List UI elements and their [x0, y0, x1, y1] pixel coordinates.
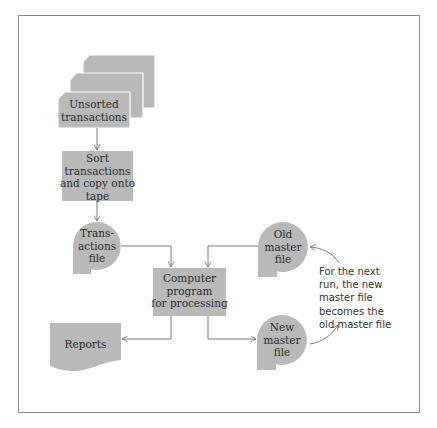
note-line: For the next: [319, 265, 391, 278]
annotation-note: For the next run, the new master file be…: [319, 265, 391, 331]
label-line: master: [257, 334, 307, 347]
unsorted-transactions-label: Unsorted transactions: [58, 98, 130, 123]
label-line: Old: [258, 228, 308, 241]
computer-program-label: Computer program for processing: [150, 272, 229, 310]
note-line: becomes the: [319, 305, 391, 318]
sort-label: Sort transactions and copy onto tape: [60, 152, 135, 202]
label-line: and copy onto: [60, 177, 135, 190]
note-line: old master file: [319, 318, 391, 331]
label-line: for processing: [150, 297, 229, 310]
new-master-file-label: New master file: [257, 321, 307, 359]
label-line: Computer: [150, 272, 229, 285]
label-line: transactions: [58, 111, 130, 124]
label-line: Sort: [60, 152, 135, 165]
label-line: actions: [73, 240, 121, 253]
transactions-file-label: Trans- actions file: [73, 227, 121, 265]
label-line: file: [73, 252, 121, 265]
flowchart-canvas: [0, 0, 437, 428]
label-line: file: [258, 253, 308, 266]
arrow-computer-to-new-master: [208, 316, 256, 339]
note-line: master file: [319, 291, 391, 304]
label-line: transactions: [60, 165, 135, 178]
label-line: tape: [60, 190, 135, 203]
label-line: program: [150, 285, 229, 298]
label-line: Trans-: [73, 227, 121, 240]
old-master-file-label: Old master file: [258, 228, 308, 266]
arrow-transactions-to-computer: [121, 246, 171, 267]
label-line: master: [258, 241, 308, 254]
label-line: New: [257, 321, 307, 334]
reports-label: Reports: [50, 338, 121, 351]
label-line: Unsorted: [58, 98, 130, 111]
label-line: file: [257, 346, 307, 359]
arrow-old-master-to-computer: [208, 246, 258, 267]
note-line: run, the new: [319, 278, 391, 291]
curved-arrow-to-old-master: [310, 247, 339, 263]
arrow-computer-to-reports: [122, 316, 171, 339]
